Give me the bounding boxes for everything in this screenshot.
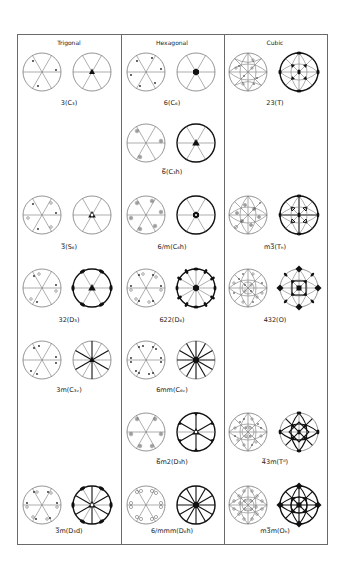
stereogram-6mmm-symmetry [176, 485, 216, 525]
column-divider [224, 34, 225, 545]
stereogram-3-symmetry [72, 52, 112, 92]
label-6mm-C6v: 6mm(C₆ᵥ) [122, 386, 222, 394]
stereogram-m3bar-symmetry [279, 195, 319, 235]
label-6barm2-D3h: 6̅m2(D₃h) [122, 458, 222, 466]
label-622-D6: 622(D₆) [122, 316, 222, 324]
stereogram-6mm-general [126, 340, 166, 380]
label-m3barm-Oh: m3̅m(Oₕ) [225, 527, 325, 535]
stereogram-32-symmetry [72, 268, 112, 308]
stereogram-6bar-general [126, 123, 166, 163]
stereogram-32-general [22, 268, 62, 308]
stereogram-6barm2-symmetry [176, 412, 216, 452]
stereogram-6-general [126, 52, 166, 92]
stereogram-6m-symmetry [176, 195, 216, 235]
label-32-D3: 32(D₃) [19, 316, 119, 324]
stereogram-m3bar-general [228, 195, 268, 235]
stereogram-3m-symmetry [72, 340, 112, 380]
stereogram-6m-general [126, 195, 166, 235]
stereogram-3bar-symmetry [72, 195, 112, 235]
stereogram-4bar3m-symmetry [279, 412, 319, 452]
label-23-T: 23(T) [225, 99, 325, 107]
stereogram-6barm2-general [126, 412, 166, 452]
label-6m-C6h: 6/m(C₆h) [122, 243, 222, 251]
stereogram-3bar-general [22, 195, 62, 235]
stereogram-3barm-general [22, 485, 62, 525]
stereogram-3-general [22, 52, 62, 92]
label-6mmm-D6h: 6/mmm(D₆h) [122, 527, 222, 535]
label-6bar-C3h: 6̅(C₃h) [122, 168, 222, 176]
label-m3bar-Th: m3̅(Tₕ) [225, 243, 325, 251]
column-header-hexagonal: Hexagonal [122, 39, 222, 46]
label-3m-C3v: 3m(C₃ᵥ) [19, 386, 119, 394]
stereogram-23-general [228, 52, 268, 92]
stereogram-6mmm-general [126, 485, 166, 525]
column-divider [121, 34, 122, 545]
stereogram-4bar3m-general [228, 412, 268, 452]
column-header-cubic: Cubic [225, 39, 325, 46]
stereogram-622-general [126, 268, 166, 308]
stereogram-622-symmetry [176, 268, 216, 308]
label-4bar3m-Td: 4̅3m(Tᵈ) [225, 458, 325, 466]
label-6-C6: 6(C₆) [122, 99, 222, 107]
stereogram-6-symmetry [176, 52, 216, 92]
stereogram-3barm-symmetry [72, 485, 112, 525]
label-3-C3: 3(C₃) [19, 99, 119, 107]
label-3bar-S6: 3̅(S₆) [19, 243, 119, 251]
label-3barm-D3d: 3̅m(D₃d) [19, 527, 119, 535]
stereogram-23-symmetry [279, 52, 319, 92]
stereogram-6bar-symmetry [176, 123, 216, 163]
stereogram-m3barm-general [228, 485, 268, 525]
stereogram-m3barm-symmetry [279, 485, 319, 525]
stereogram-6mm-symmetry [176, 340, 216, 380]
stereogram-432-general [228, 268, 268, 308]
label-432-O: 432(O) [225, 316, 325, 324]
stereogram-432-symmetry [279, 268, 319, 308]
column-header-trigonal: Trigonal [19, 39, 119, 46]
stereogram-3m-general [22, 340, 62, 380]
